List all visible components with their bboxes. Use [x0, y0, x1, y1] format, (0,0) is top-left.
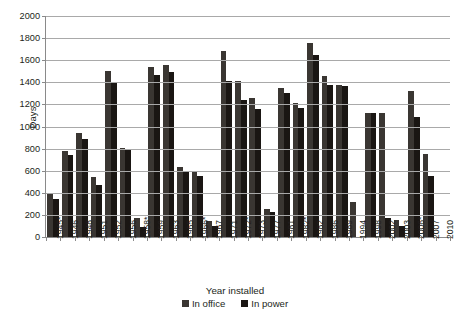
- x-axis-tick-label: 1981: [286, 220, 296, 239]
- y-axis-tick-label: 1800: [14, 33, 40, 43]
- x-axis-tick-labels: 1945*194619481951195219561958*1959196319…: [45, 239, 449, 283]
- x-axis-tick-label: 1945*: [55, 217, 65, 239]
- y-axis-tick: [42, 171, 46, 172]
- y-axis-tick-label: 1000: [14, 122, 40, 132]
- y-axis-tick: [42, 149, 46, 150]
- x-axis-tick-label: 1956: [128, 220, 138, 239]
- legend-label: In power: [251, 298, 288, 309]
- legend-label: In office: [192, 298, 225, 309]
- x-axis-tick-label: 2003: [402, 220, 412, 239]
- x-axis-tick-label: 1952: [113, 220, 123, 239]
- x-axis-tick-label: 2006*: [416, 217, 426, 239]
- x-axis-tick-label: 1967: [214, 220, 224, 239]
- x-axis-tick-label: 1998: [373, 220, 383, 239]
- x-axis-tick-label: 1959: [156, 220, 166, 239]
- y-axis-tick: [42, 60, 46, 61]
- gridline: [46, 60, 450, 61]
- y-axis-tick: [42, 127, 46, 128]
- x-axis-tick-label: 1989: [344, 220, 354, 239]
- x-axis-tick-label: 1951: [99, 220, 109, 239]
- chart-legend: In officeIn power: [0, 298, 470, 309]
- y-axis-tick-label: 1600: [14, 55, 40, 65]
- x-axis-tick-label: 1948: [84, 220, 94, 239]
- square-swatch-icon: [182, 300, 189, 307]
- x-axis-tick-label: 1972*: [243, 217, 253, 239]
- x-axis-tick-label: 1982*: [301, 217, 311, 239]
- y-axis-tick-labels: 0200400600800100012001400160018002000: [14, 10, 40, 242]
- y-axis-tick-label: 400: [14, 188, 40, 198]
- x-axis-tick-label: 1986: [330, 220, 340, 239]
- x-axis-tick-label: 1965: [185, 220, 195, 239]
- x-axis-tick-label: 1977: [272, 220, 282, 239]
- x-axis-tick-label: 1958*: [142, 217, 152, 239]
- legend-entry[interactable]: In power: [241, 298, 288, 309]
- plot-area: [45, 16, 450, 238]
- y-axis-tick-label: 600: [14, 166, 40, 176]
- bar-in-power: [169, 72, 175, 237]
- gridline: [46, 38, 450, 39]
- x-axis-title: Year installed: [0, 285, 470, 296]
- x-axis-tick-label: 1946: [70, 220, 80, 239]
- x-axis-tick-label: 2002: [387, 220, 397, 239]
- y-axis-tick-label: 2000: [14, 11, 40, 21]
- gridline: [46, 127, 450, 128]
- gridline: [46, 149, 450, 150]
- y-axis-tick-label: 1200: [14, 99, 40, 109]
- y-axis-tick-label: 1400: [14, 77, 40, 87]
- y-axis-tick: [42, 38, 46, 39]
- bar-in-power: [371, 113, 377, 237]
- x-axis-tick-label: 1994: [358, 220, 368, 239]
- bar-in-power: [255, 109, 261, 237]
- y-axis-tick-label: 200: [14, 210, 40, 220]
- bar-chart: Days 02004006008001000120014001600180020…: [0, 0, 470, 326]
- gridline: [46, 193, 450, 194]
- legend-entry[interactable]: In office: [182, 298, 225, 309]
- gridline: [46, 104, 450, 105]
- gridline: [46, 82, 450, 83]
- y-axis-tick: [42, 16, 46, 17]
- y-axis-tick: [42, 193, 46, 194]
- x-axis-tick-label: 1973: [257, 220, 267, 239]
- x-axis-tick-label: 1966*: [200, 217, 210, 239]
- gridline: [46, 16, 450, 17]
- x-axis-tick-label: 1982: [315, 220, 325, 239]
- y-axis-tick: [42, 104, 46, 105]
- y-axis-tick: [42, 82, 46, 83]
- square-swatch-icon: [241, 300, 248, 307]
- gridline: [46, 171, 450, 172]
- x-axis-tick-label: 2007: [431, 220, 441, 239]
- x-axis-tick-label: 1971: [229, 220, 239, 239]
- y-axis-tick-label: 0: [14, 232, 40, 242]
- y-axis-tick-label: 800: [14, 144, 40, 154]
- x-axis-tick-label: 2010: [445, 220, 455, 239]
- x-axis-tick-label: 1963: [171, 220, 181, 239]
- y-axis-tick: [42, 215, 46, 216]
- bar-in-power: [154, 75, 160, 237]
